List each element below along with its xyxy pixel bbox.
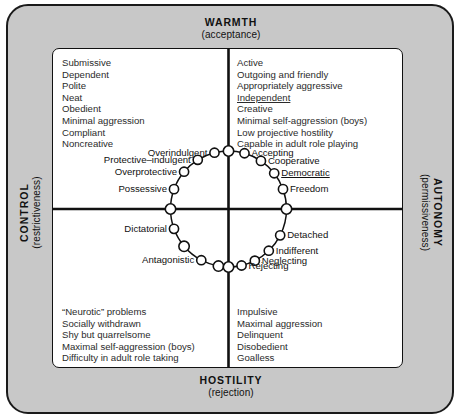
circumplex-node-label: Antagonistic — [142, 255, 194, 265]
circumplex-node[interactable] — [270, 169, 279, 178]
axis-label-autonomy: AUTONOMY (permissiveness) — [420, 122, 445, 302]
axis-label-warmth: WARMTH (acceptance) — [0, 16, 462, 41]
trait-item: Maximal aggression — [237, 318, 322, 330]
circumplex-node[interactable] — [197, 256, 206, 265]
trait-item: Obedient — [62, 103, 145, 115]
circumplex-node[interactable] — [223, 262, 233, 272]
trait-item: Polite — [62, 80, 145, 92]
circumplex-node-label: Detached — [287, 230, 328, 240]
trait-item: Maximal self-aggression (boys) — [62, 341, 195, 353]
trait-item: Minimal aggression — [62, 115, 145, 127]
axis-left-sub: (restrictiveness) — [30, 122, 42, 302]
axis-top-sub: (acceptance) — [0, 29, 462, 41]
circumplex-node[interactable] — [281, 204, 291, 214]
trait-item: “Neurotic” problems — [62, 306, 195, 318]
trait-item: Compliant — [62, 127, 145, 139]
circumplex-node[interactable] — [276, 231, 285, 240]
circumplex-figure: WARMTH (acceptance) HOSTILITY (rejection… — [0, 0, 462, 420]
circumplex-node[interactable] — [179, 241, 189, 251]
trait-list-top-left: SubmissiveDependentPoliteNeatObedientMin… — [62, 57, 145, 150]
circumplex-node[interactable] — [240, 149, 249, 158]
axis-bottom-sub: (rejection) — [0, 387, 462, 399]
axis-left-main: CONTROL — [18, 122, 31, 302]
trait-item: Difficulty in adult role taking — [62, 352, 195, 364]
circumplex-node-label: Overprotective — [115, 167, 177, 177]
trait-item: Low projective hostility — [237, 127, 367, 139]
circumplex-node[interactable] — [210, 148, 219, 157]
trait-item: Disobedient — [237, 341, 322, 353]
trait-list-bottom-left: “Neurotic” problemsSocially withdrawnShy… — [62, 306, 195, 364]
trait-item: Independent — [237, 92, 367, 104]
circumplex-node-label: Possessive — [118, 184, 167, 194]
circumplex-node[interactable] — [179, 167, 188, 176]
circumplex-node[interactable] — [169, 185, 178, 194]
circumplex-node-label: Indifferent — [276, 246, 319, 256]
circumplex-node[interactable] — [165, 204, 175, 214]
circumplex-node-label: Protective–indulgent — [104, 155, 191, 165]
axis-label-control: CONTROL (restrictiveness) — [18, 122, 43, 302]
axis-label-hostility: HOSTILITY (rejection) — [0, 374, 462, 399]
trait-item: Impulsive — [237, 306, 322, 318]
circumplex-node-label: Democratic — [281, 168, 330, 178]
trait-item: Shy but quarrelsome — [62, 329, 195, 341]
trait-list-top-right: ActiveOutgoing and friendlyAppropriately… — [237, 57, 367, 150]
trait-item: Active — [237, 57, 367, 69]
circumplex-node[interactable] — [169, 224, 178, 233]
trait-item: Goalless — [237, 352, 322, 364]
circumplex-node[interactable] — [213, 261, 223, 271]
axis-right-main: AUTONOMY — [432, 122, 445, 302]
trait-item: Dependent — [62, 69, 145, 81]
chart-panel: OverindulgentProtective–indulgentOverpro… — [52, 48, 403, 368]
trait-list-bottom-right: ImpulsiveMaximal aggressionDelinquentDis… — [237, 306, 322, 364]
trait-item: Noncreative — [62, 138, 145, 150]
trait-item: Submissive — [62, 57, 145, 69]
axis-right-sub: (permissiveness) — [420, 122, 432, 302]
trait-item: Delinquent — [237, 329, 322, 341]
circumplex-node[interactable] — [237, 261, 246, 270]
circumplex-node-label: Freedom — [290, 184, 328, 194]
circumplex-node[interactable] — [223, 146, 233, 156]
axis-top-main: WARMTH — [0, 16, 462, 29]
trait-item: Creative — [237, 103, 367, 115]
circumplex-node[interactable] — [278, 185, 287, 194]
trait-item: Neat — [62, 92, 145, 104]
trait-item: Outgoing and friendly — [237, 69, 367, 81]
trait-item: Socially withdrawn — [62, 318, 195, 330]
trait-item: Minimal self-aggression (boys) — [237, 115, 367, 127]
circumplex-node-label: Neglecting — [262, 256, 307, 266]
axis-bottom-main: HOSTILITY — [0, 374, 462, 387]
circumplex-node-label: Dictatorial — [124, 224, 167, 234]
trait-item: Appropriately aggressive — [237, 80, 367, 92]
trait-item: Capable in adult role playing — [237, 138, 367, 150]
